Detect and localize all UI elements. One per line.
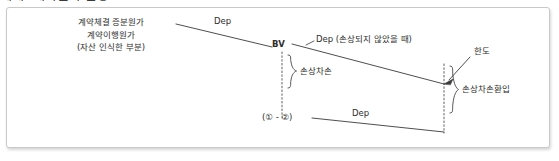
bv-label: BV <box>272 39 285 50</box>
fulfilment-cost-label: 계약이행원가 <box>48 29 174 42</box>
limit-label: 한도 <box>474 46 490 57</box>
recognized-asset-portion-label: (자산 인식한 부분) <box>48 41 174 54</box>
residual-expression-label: (① - ②) <box>262 112 292 123</box>
diagram-page: 예제) 계약원가 손상 계약체결 증분원가 <box>0 0 559 161</box>
dep-no-impairment-label: Dep (손상되지 않았을 때) <box>316 34 412 45</box>
dep-bottom-label: Dep <box>352 108 369 119</box>
page-title-fragment: 예제) 계약원가 손상 <box>0 0 120 6</box>
contract-cost-block: 계약체결 증분원가 계약이행원가 (자산 인식한 부분) <box>48 16 174 54</box>
impairment-reversal-label: 손상차손환입 <box>462 84 510 95</box>
dep-top-label: Dep <box>214 16 231 27</box>
incremental-cost-label: 계약체결 증분원가 <box>48 16 174 29</box>
impairment-loss-label: 손상차손 <box>300 66 332 77</box>
